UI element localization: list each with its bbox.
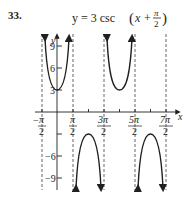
svg-text:9: 9 [50,41,55,52]
chart: y = 3 csc ( x + π 2 ) y x [0,0,189,199]
svg-text:π: π [154,8,159,18]
svg-text:−9: −9 [45,173,56,184]
svg-text:π: π [39,114,45,125]
svg-text:y = 3 csc: y = 3 csc [72,11,115,25]
svg-text:3π: 3π [97,114,109,125]
chart-title: y = 3 csc ( x + π 2 ) [72,8,167,29]
svg-text:−6: −6 [45,151,56,162]
svg-text:π: π [70,114,76,125]
svg-text:2: 2 [39,126,44,137]
svg-text:7π: 7π [160,114,171,125]
svg-text:+: + [144,11,151,25]
svg-text:2: 2 [154,19,159,29]
svg-text:2: 2 [70,126,75,137]
svg-text:): ) [162,10,167,27]
svg-text:2: 2 [132,126,137,137]
axes [35,36,178,190]
svg-text:5π: 5π [129,114,140,125]
x-tick-labels: − π 2 π 2 3π 2 5π 2 7π 2 [33,114,173,137]
svg-text:2: 2 [163,126,168,137]
svg-text:(: ( [129,10,134,27]
svg-text:6: 6 [50,63,55,74]
svg-text:x: x [134,11,141,25]
x-axis-label: x [177,111,183,122]
svg-text:2: 2 [101,126,106,137]
